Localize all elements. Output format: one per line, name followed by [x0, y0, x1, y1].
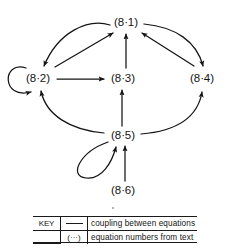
edge-8-1-to-8-4	[144, 24, 203, 66]
node-label-8-6: (8·6)	[111, 184, 135, 196]
node-label-8-1: (8·1)	[114, 16, 138, 28]
figure-canvas: (8·1) (8·2) (8·3) (8·4) (8·5) (8·6) KEY …	[0, 0, 228, 251]
key-coupling-text: coupling between equations	[88, 217, 197, 230]
node-label-8-2: (8·2)	[26, 72, 50, 84]
node-labels: (8·1) (8·2) (8·3) (8·4) (8·5) (8·6)	[26, 16, 214, 196]
line-sample-icon	[66, 223, 83, 224]
edge-8-5-self-loop	[77, 142, 116, 178]
edge-8-1-to-8-2	[44, 23, 110, 66]
node-label-8-4: (8·4)	[190, 72, 214, 84]
edge-8-5-to-8-2	[41, 91, 104, 133]
key-paren-symbol: (···)	[60, 231, 88, 245]
key-row-equation-numbers: (···) equation numbers from text	[33, 231, 197, 245]
key-line-symbol	[60, 217, 88, 230]
edge-8-4-to-8-1	[142, 33, 194, 66]
key-blank-cell	[33, 231, 60, 245]
key-row-coupling: KEY coupling between equations	[33, 217, 197, 231]
key-legend: KEY coupling between equations (···) equ…	[33, 216, 197, 243]
key-equation-numbers-text: equation numbers from text	[88, 231, 197, 245]
key-title: KEY	[33, 217, 60, 230]
node-label-8-3: (8·3)	[111, 72, 135, 84]
node-label-8-5: (8·5)	[111, 129, 135, 141]
coupling-diagram: (8·1) (8·2) (8·3) (8·4) (8·5) (8·6)	[0, 0, 228, 251]
edge-8-5-to-8-4	[141, 92, 202, 134]
